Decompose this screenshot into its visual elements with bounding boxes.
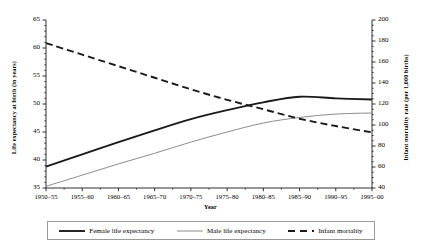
legend-item-2[interactable]: Infant mortality	[288, 227, 362, 235]
solid-thin-line-icon	[177, 227, 203, 235]
chart-legend: Female life expectancyMale life expectan…	[47, 221, 375, 240]
legend-item-0[interactable]: Female life expectancy	[59, 227, 154, 235]
legend-item-1[interactable]: Male life expectancy	[177, 227, 266, 235]
legend-item-label: Infant mortality	[318, 227, 362, 235]
legend-item-label: Male life expectancy	[207, 227, 266, 235]
series-line-0	[46, 97, 372, 167]
legend-item-label: Female life expectancy	[89, 227, 154, 235]
solid-thick-line-icon	[59, 227, 85, 235]
dashed-line-icon	[288, 227, 314, 235]
series-line-2	[46, 43, 372, 132]
plot-area	[0, 0, 421, 247]
life-expectancy-chart: Life expectancy at birth (in years) Infa…	[0, 0, 421, 247]
